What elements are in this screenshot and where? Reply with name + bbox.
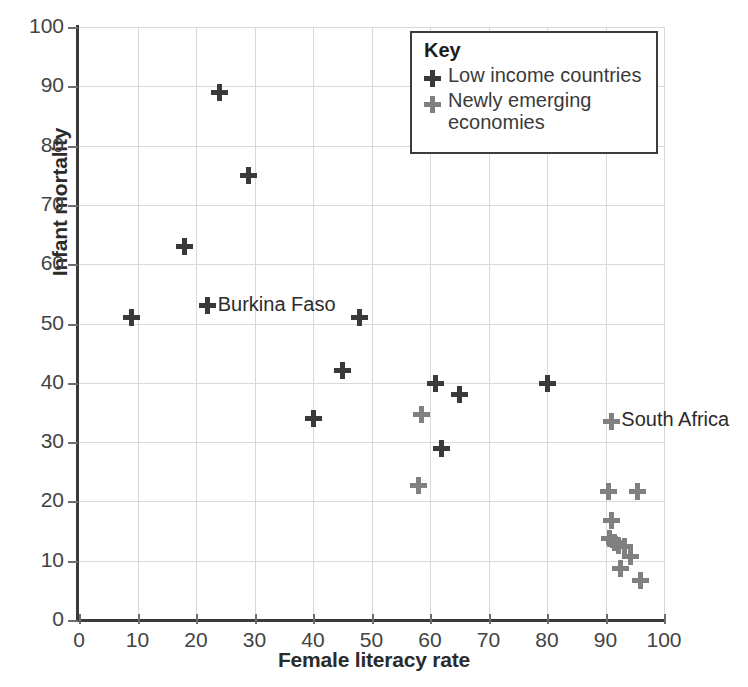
- x-tick-label: 80: [520, 628, 574, 652]
- y-tick-mark: [68, 205, 78, 207]
- x-tick-mark: [196, 614, 198, 624]
- x-tick-label: 90: [579, 628, 633, 652]
- legend-entry-label: Low income countries: [448, 65, 641, 87]
- y-tick-mark: [68, 442, 78, 444]
- data-point-marker: [211, 84, 228, 101]
- data-point-marker: [451, 386, 468, 403]
- data-point-marker: [427, 375, 444, 392]
- x-tick-label: 20: [169, 628, 223, 652]
- x-tick-mark: [606, 614, 608, 624]
- y-tick-label: 10: [12, 548, 64, 572]
- y-tick-label: 60: [12, 251, 64, 275]
- y-tick-mark: [68, 501, 78, 503]
- gridline-vertical: [664, 27, 665, 620]
- data-point-marker: [603, 413, 620, 430]
- gridline-vertical: [196, 27, 197, 620]
- y-tick-label: 90: [12, 73, 64, 97]
- x-tick-mark: [547, 614, 549, 624]
- data-point-marker: [199, 297, 216, 314]
- y-tick-label: 70: [12, 192, 64, 216]
- x-tick-mark: [664, 614, 666, 624]
- y-tick-mark: [68, 620, 78, 622]
- y-tick-mark: [68, 561, 78, 563]
- x-tick-mark: [255, 614, 257, 624]
- x-tick-label: 100: [637, 628, 691, 652]
- y-tick-mark: [68, 383, 78, 385]
- y-tick-label: 40: [12, 370, 64, 394]
- legend-entry-label: Newly emerging economies: [448, 90, 646, 133]
- data-point-marker: [351, 309, 368, 326]
- x-tick-label: 70: [462, 628, 516, 652]
- data-point-label: South Africa: [621, 408, 729, 431]
- x-tick-label: 30: [228, 628, 282, 652]
- y-tick-label: 50: [12, 311, 64, 335]
- x-tick-mark: [79, 614, 81, 624]
- data-point-label: Burkina Faso: [218, 293, 336, 316]
- scatter-chart: Infant mortality Female literacy rate 01…: [0, 0, 748, 687]
- y-tick-label: 100: [12, 14, 64, 38]
- gridline-vertical: [313, 27, 314, 620]
- y-tick-mark: [68, 264, 78, 266]
- data-point-marker: [600, 483, 617, 500]
- x-tick-mark: [372, 614, 374, 624]
- y-tick-mark: [68, 324, 78, 326]
- data-point-marker: [612, 560, 629, 577]
- legend: Key Low income countriesNewly emerging e…: [410, 31, 658, 154]
- x-tick-mark: [313, 614, 315, 624]
- legend-marker-icon: [424, 65, 448, 87]
- gridline-vertical: [372, 27, 373, 620]
- data-point-marker: [433, 440, 450, 457]
- y-tick-mark: [68, 146, 78, 148]
- x-tick-mark: [138, 614, 140, 624]
- y-tick-label: 20: [12, 488, 64, 512]
- legend-marker-icon: [424, 90, 448, 112]
- x-tick-mark: [489, 614, 491, 624]
- gridline-vertical: [255, 27, 256, 620]
- data-point-marker: [413, 406, 430, 423]
- data-point-marker: [629, 483, 646, 500]
- x-tick-label: 60: [403, 628, 457, 652]
- y-tick-label: 80: [12, 133, 64, 157]
- legend-entry: Newly emerging economies: [424, 90, 646, 133]
- x-tick-label: 40: [286, 628, 340, 652]
- x-tick-mark: [430, 614, 432, 624]
- data-point-marker: [603, 512, 620, 529]
- data-point-marker: [410, 477, 427, 494]
- y-tick-mark: [68, 27, 78, 29]
- data-point-marker: [334, 362, 351, 379]
- data-point-marker: [632, 572, 649, 589]
- y-tick-label: 30: [12, 429, 64, 453]
- data-point-marker: [240, 167, 257, 184]
- legend-title: Key: [424, 39, 646, 61]
- data-point-marker: [305, 410, 322, 427]
- data-point-marker: [123, 309, 140, 326]
- y-tick-mark: [68, 86, 78, 88]
- x-tick-label: 0: [52, 628, 106, 652]
- x-tick-label: 10: [111, 628, 165, 652]
- x-tick-label: 50: [345, 628, 399, 652]
- legend-entry: Low income countries: [424, 65, 646, 87]
- data-point-marker: [176, 238, 193, 255]
- data-point-marker: [539, 375, 556, 392]
